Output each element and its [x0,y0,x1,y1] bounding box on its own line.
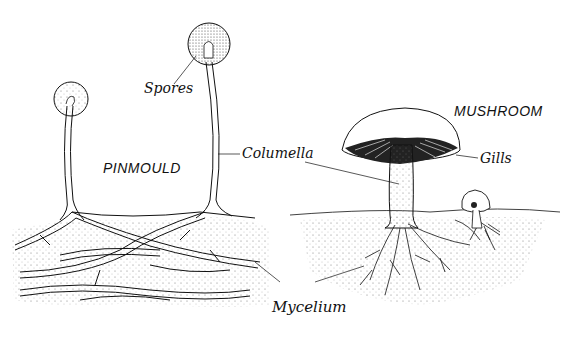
label-gills: Gills [480,150,512,166]
diagram-drawing [0,0,567,337]
title-pinmould: PINMOULD [103,160,181,176]
columella-leader-mushroom [305,162,399,184]
pinmould-sporangium-large [188,23,232,218]
pinmould-sporangium-small [54,82,88,220]
mushroom-large [342,108,460,228]
label-columella: Columella [242,145,314,161]
fungi-diagram: Spores PINMOULD Columella MUSHROOM Gills… [0,0,567,337]
mushroom-substrate [290,209,560,305]
label-mycelium: Mycelium [272,298,347,316]
gills-leader [456,155,478,158]
pinmould-substrate [12,217,270,307]
label-spores: Spores [144,80,193,96]
title-mushroom: MUSHROOM [454,103,543,119]
